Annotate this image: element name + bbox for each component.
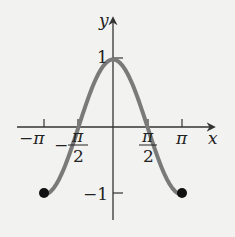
x-tick-label-half-pi-den: 2 [143, 146, 154, 166]
x-tick-label-neg-pi: −π [19, 128, 45, 148]
x-tick-label-half-pi-num: π [141, 126, 154, 146]
y-tick-label-neg-one: −1 [83, 184, 108, 204]
endpoint-right [177, 188, 187, 198]
y-axis-label: y [98, 10, 109, 30]
x-tick-label-neg-half-pi-num: π [71, 126, 84, 146]
cosine-graph: y x 1 −1 −π π − π 2 π 2 [0, 0, 235, 237]
x-tick-label-pi: π [175, 128, 188, 148]
x-tick-label-neg-half-pi-den: 2 [73, 146, 84, 166]
x-tick-label-neg-half-pi-minus: − [54, 135, 68, 155]
y-tick-label-one: 1 [97, 47, 108, 67]
endpoint-left [39, 188, 49, 198]
x-axis-label: x [208, 128, 218, 148]
